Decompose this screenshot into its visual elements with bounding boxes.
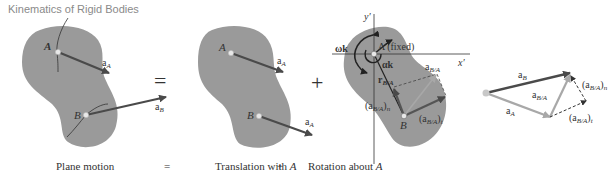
vector-a-b (486, 73, 570, 93)
label-a-ba-n: (aB/A)n (582, 79, 608, 92)
axis-y-label: y′ (363, 11, 371, 22)
rigid-body-shape-translated (198, 26, 291, 148)
label-alpha-k: αk (382, 59, 394, 70)
vector-diagram-panel: aB aA aB/A (aB/A)n (aB/A)t (483, 69, 608, 125)
caption-rotation: Rotation about A (308, 160, 383, 172)
origin-point (483, 90, 490, 97)
caption-equals: = (164, 160, 170, 172)
label-a-b: aB (518, 69, 527, 82)
label-a-ba: aB/A (532, 89, 548, 102)
point-b (83, 112, 88, 117)
kinematics-diagram: A B aA aB = A B aA aA + y′ x′ ωk αk A (f… (0, 0, 612, 184)
label-a: A (218, 41, 226, 53)
vector-a-ba (550, 75, 570, 117)
label-omega-k: ωk (335, 43, 348, 54)
translation-panel: A B aA aA (198, 26, 314, 148)
caption-plane-motion: Plane motion (56, 160, 114, 172)
caption-translation: Translation with A (215, 160, 297, 172)
label-a-fixed: A (fixed) (378, 41, 414, 53)
label-accel-b: aB (155, 101, 164, 114)
label-a-a: aA (506, 105, 515, 118)
rigid-body-shape (22, 26, 118, 147)
label-a-ba-t: (aB/A)t (569, 112, 594, 125)
point-a (228, 50, 233, 55)
point-b (401, 113, 407, 119)
axis-x-label: x′ (457, 57, 465, 68)
label-a: A (43, 40, 51, 52)
label-accel-a-bottom: aA (305, 116, 314, 129)
plane-motion-panel: A B aA aB (22, 18, 166, 147)
point-b (256, 113, 261, 118)
rotation-panel: y′ x′ ωk αk A (fixed) rB/A B aB/A (aB/A)… (332, 11, 470, 164)
label-accel-a: aA (102, 57, 111, 70)
label-b: B (400, 119, 407, 131)
caption-plus: + (277, 160, 283, 172)
plus-sign: + (311, 70, 323, 95)
label-b: B (74, 109, 81, 121)
point-a (371, 51, 377, 57)
label-accel-a-top: aA (277, 55, 286, 68)
equals-sign: = (154, 68, 166, 93)
point-a (55, 49, 60, 54)
label-b: B (247, 109, 254, 121)
